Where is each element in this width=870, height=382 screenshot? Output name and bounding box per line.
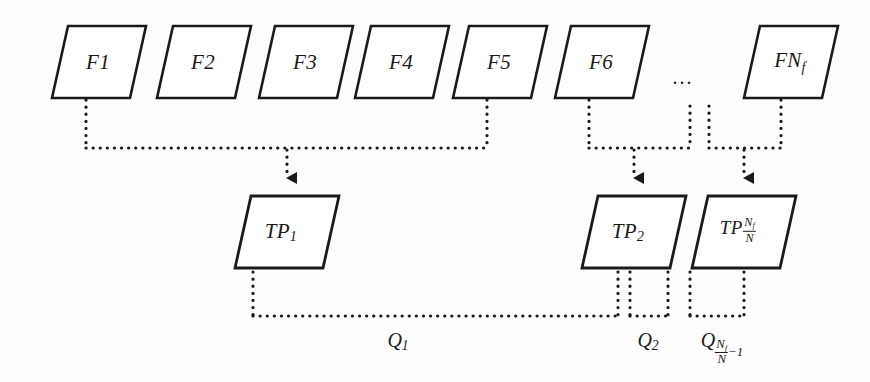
- tp-label-tpn-fraction: NfN: [743, 216, 756, 244]
- query-label-qn-num-base: N: [716, 337, 725, 351]
- time-period-parallelograms: [235, 196, 796, 268]
- query-label-qn: QNfN−1: [701, 330, 743, 366]
- tp-label-tpn-num-base: N: [744, 215, 752, 229]
- tp-label-tpn-num-sub: f: [753, 221, 756, 230]
- frame-label-fnf-main: FN: [774, 48, 801, 72]
- frame-parallelograms: [52, 26, 838, 98]
- tp-label-tp2-sub: 2: [637, 228, 644, 244]
- tp-label-tp2: TP2: [612, 221, 645, 243]
- tp-label-tp2-main: TP: [612, 219, 637, 243]
- tp-label-tpn-numerator: Nf: [743, 216, 756, 231]
- connector-group-1: [86, 100, 487, 148]
- frame-label-fnf: FNf: [774, 50, 806, 74]
- tp-label-tpn: TPNfN: [720, 216, 756, 244]
- query-bracket-q2: [630, 272, 668, 316]
- tp-label-tp1-sub: 1: [290, 228, 297, 244]
- query-label-qn-tail: −1: [728, 346, 743, 359]
- query-bracket-q1: [253, 272, 618, 316]
- diagram-canvas: F1 F2 F3 F4 F5 F6 FNf ... TP1 TP2 TPNfN …: [0, 0, 870, 382]
- tp-label-tp1-main: TP: [265, 219, 290, 243]
- query-label-q2-main: Q: [637, 329, 651, 351]
- frame-label-f2: F2: [191, 52, 215, 73]
- frame-label-f6: F6: [589, 52, 613, 73]
- frame-label-f5: F5: [487, 52, 511, 73]
- query-label-qn-main: Q: [701, 329, 715, 351]
- query-label-q1: Q1: [387, 330, 408, 353]
- frame-label-fnf-sub: f: [802, 59, 806, 75]
- connector-group-2: [589, 100, 690, 148]
- tp-label-tpn-denominator: N: [743, 231, 756, 244]
- tp-label-tpn-main: TP: [720, 217, 743, 238]
- diagram-vector-layer: [0, 0, 870, 382]
- query-label-q1-sub: 1: [402, 338, 409, 353]
- tp-label-tp1: TP1: [265, 221, 298, 243]
- query-label-qn-numerator: Nf: [715, 338, 728, 353]
- query-label-q1-main: Q: [387, 329, 401, 351]
- query-label-q2-sub: 2: [652, 338, 659, 353]
- query-label-qn-fraction: NfN: [715, 338, 728, 367]
- query-bracket-qn: [690, 272, 744, 316]
- frame-row-ellipsis: ...: [673, 67, 694, 87]
- query-label-qn-subscript: NfN−1: [715, 338, 743, 367]
- frame-label-f3: F3: [293, 52, 317, 73]
- connector-group-n: [709, 100, 781, 148]
- query-label-q2: Q2: [637, 330, 658, 353]
- query-label-qn-num-sub: f: [725, 342, 727, 352]
- query-label-qn-denominator: N: [715, 352, 728, 366]
- frame-label-f4: F4: [389, 52, 413, 73]
- frame-label-f1: F1: [86, 52, 110, 73]
